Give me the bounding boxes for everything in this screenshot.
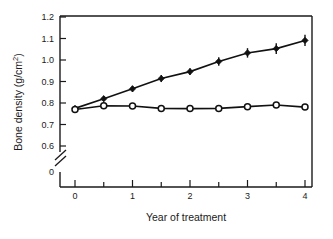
y-tick-label: 0.8 — [41, 98, 54, 108]
data-point-marker — [273, 102, 279, 108]
data-point-marker — [244, 50, 250, 56]
data-point-marker — [216, 105, 222, 111]
x-tick-label: 2 — [187, 191, 192, 201]
chart-canvas: 0.60.70.80.91.01.11.20 01234 Year of tre… — [0, 0, 333, 239]
x-tick-label: 3 — [245, 191, 250, 201]
data-point-marker — [158, 105, 164, 111]
data-point-marker — [72, 106, 78, 112]
y-tick-label: 1.2 — [41, 12, 54, 22]
series-control — [72, 102, 308, 113]
y-tick-label: 0.6 — [41, 141, 54, 151]
y-tick-label: 0.7 — [41, 120, 54, 130]
x-axis-title: Year of treatment — [146, 211, 226, 223]
data-point-marker — [302, 37, 308, 43]
y-axis-title: Bone density (g/cm2) — [11, 53, 25, 151]
x-axis-ticks: 01234 — [72, 180, 307, 201]
data-point-marker — [302, 104, 308, 110]
data-point-marker — [158, 75, 164, 81]
y-tick-label-zero: 0 — [49, 167, 54, 177]
data-point-marker — [130, 103, 136, 109]
x-tick-label: 1 — [130, 191, 135, 201]
data-point-marker — [101, 103, 107, 109]
x-tick-label: 0 — [72, 191, 77, 201]
y-axis-ticks: 0.60.70.80.91.01.11.20 — [41, 12, 66, 177]
data-series-group — [72, 35, 308, 113]
data-point-marker — [245, 104, 251, 110]
data-point-marker — [101, 96, 107, 102]
data-point-marker — [187, 106, 193, 112]
data-point-marker — [216, 58, 222, 64]
data-point-marker — [129, 86, 135, 92]
data-point-marker — [187, 69, 193, 75]
y-tick-label: 0.9 — [41, 77, 54, 87]
series-treatment — [72, 35, 308, 112]
data-point-marker — [273, 46, 279, 52]
y-tick-label: 1.0 — [41, 55, 54, 65]
y-axis-break-icon — [55, 150, 66, 166]
y-tick-label: 1.1 — [41, 34, 54, 44]
bone-density-chart-figure: 0.60.70.80.91.01.11.20 01234 Year of tre… — [0, 0, 333, 239]
svg-text:Bone density (g/cm2): Bone density (g/cm2) — [11, 53, 25, 151]
x-tick-label: 4 — [302, 191, 307, 201]
